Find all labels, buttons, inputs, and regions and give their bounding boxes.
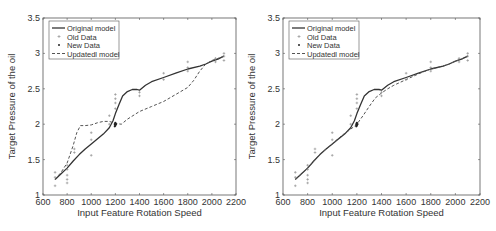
- legend: Original modelOld DataNew DataUpdatedl m…: [289, 21, 360, 59]
- figure: 600800100012001400160018002000220011.522…: [0, 0, 496, 231]
- right-chart-panel: 600800100012001400160018002000220011.522…: [246, 13, 490, 218]
- y-tick-label: 2: [35, 119, 40, 129]
- x-tick-label: 1200: [347, 197, 367, 207]
- x-tick-label: 1600: [154, 197, 174, 207]
- legend-dot-marker-icon: [58, 44, 60, 46]
- y-tick-label: 3: [35, 48, 40, 58]
- x-tick-label: 1400: [129, 197, 149, 207]
- x-tick-label: 1400: [371, 197, 391, 207]
- legend-dot-marker-icon: [298, 44, 300, 46]
- x-tick-label: 1600: [396, 197, 416, 207]
- legend: Original modelOld DataNew DataUpdatedl m…: [49, 21, 120, 59]
- y-axis-label: Target Pressure of the oil: [6, 54, 17, 160]
- x-tick-label: 2000: [202, 197, 222, 207]
- x-tick-label: 1800: [421, 197, 441, 207]
- y-tick-label: 3.5: [267, 13, 280, 23]
- y-axis-label: Target Pressure of the oil: [246, 54, 257, 160]
- legend-label: Updatedl model: [307, 50, 360, 59]
- y-tick-label: 1.5: [27, 155, 40, 165]
- y-tick-label: 3.5: [27, 13, 40, 23]
- y-tick-label: 1: [35, 190, 40, 200]
- y-tick-label: 1.5: [267, 155, 280, 165]
- x-tick-label: 1000: [81, 197, 101, 207]
- x-tick-label: 2200: [226, 197, 246, 207]
- figure-canvas: 600800100012001400160018002000220011.522…: [0, 0, 496, 231]
- new-data-marker: [356, 123, 358, 125]
- y-tick-label: 3: [275, 48, 280, 58]
- x-tick-label: 2000: [445, 197, 465, 207]
- legend-label: Updatedl model: [67, 50, 120, 59]
- x-tick-label: 1800: [178, 197, 198, 207]
- x-axis-label: Input Feature Rotation Speed: [77, 207, 202, 218]
- x-tick-label: 1200: [105, 197, 125, 207]
- x-tick-label: 1000: [322, 197, 342, 207]
- x-tick-label: 800: [60, 197, 75, 207]
- x-axis-label: Input Feature Rotation Speed: [319, 207, 444, 218]
- x-tick-label: 800: [300, 197, 315, 207]
- new-data-marker: [115, 123, 117, 125]
- y-tick-label: 1: [275, 190, 280, 200]
- left-chart-panel: 600800100012001400160018002000220011.522…: [6, 13, 246, 218]
- y-tick-label: 2.5: [27, 84, 40, 94]
- y-tick-label: 2: [275, 119, 280, 129]
- y-tick-label: 2.5: [267, 84, 280, 94]
- x-tick-label: 2200: [470, 197, 490, 207]
